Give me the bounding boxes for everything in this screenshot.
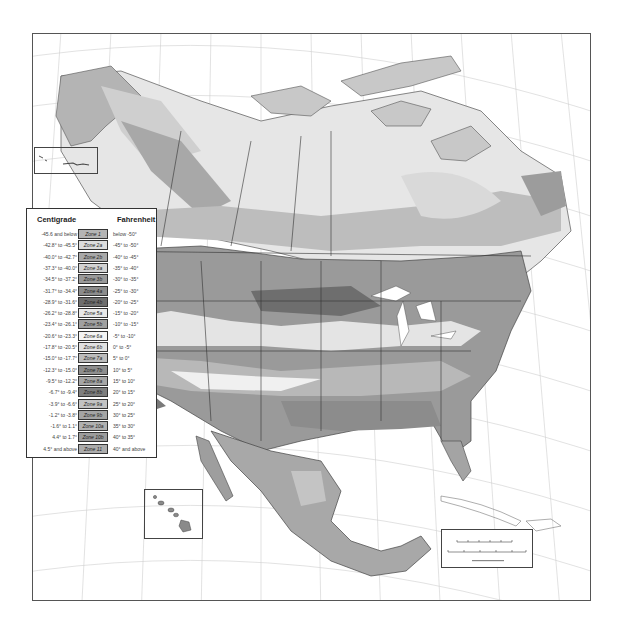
legend-fahrenheit: 0° to -5° [113,342,157,353]
legend-celsius: -9.5° to -12.2° [29,376,77,387]
zone-legend: Centigrade Fahrenheit -45.6 and belowZon… [26,208,157,458]
legend-zone-swatch: Zone 2b [78,252,108,262]
legend-row: -45.6 and belowZone 1below -50° [27,229,158,240]
legend-row: -15.0° to -17.7°Zone 7a5° to 0° [27,353,158,364]
legend-fahrenheit: 15° to 10° [113,376,157,387]
legend-zone-swatch: Zone 2a [78,240,108,250]
legend-row: -42.8° to -45.5°Zone 2a-45° to -50° [27,240,158,251]
legend-fahrenheit: -45° to -50° [113,240,157,251]
legend-row: -26.2° to -28.8°Zone 5a-15° to -20° [27,308,158,319]
legend-celsius: -20.6° to -23.3° [29,331,77,342]
legend-row: -1.6° to 1.1°Zone 10a35° to 30° [27,421,158,432]
legend-row: -23.4° to -26.1°Zone 5b-10° to -15° [27,319,158,330]
legend-celsius: -45.6 and below [29,229,77,240]
legend-row: -28.9° to -31.6°Zone 4b-20° to -25° [27,297,158,308]
legend-fahrenheit: -35° to -40° [113,263,157,274]
legend-celsius: -31.7° to -34.4° [29,286,77,297]
legend-row: -20.6° to -23.3°Zone 6a-5° to -10° [27,331,158,342]
legend-celsius: 4.5° and above [29,444,77,455]
legend-row: -17.8° to -20.5°Zone 6b0° to -5° [27,342,158,353]
legend-fahrenheit: 30° to 25° [113,410,157,421]
legend-fahrenheit: -30° to -35° [113,274,157,285]
legend-zone-swatch: Zone 5b [78,319,108,329]
legend-zone-swatch: Zone 6b [78,342,108,352]
legend-fahrenheit: -25° to -30° [113,286,157,297]
legend-row: -37.3° to -40.0°Zone 3a-35° to -40° [27,263,158,274]
legend-celsius: -28.9° to -31.6° [29,297,77,308]
legend-row: -1.2° to -3.8°Zone 9b30° to 25° [27,410,158,421]
legend-row: -40.0° to -42.7°Zone 2b-40° to -45° [27,252,158,263]
legend-zone-swatch: Zone 4b [78,297,108,307]
legend-row: -3.9° to -6.6°Zone 9a25° to 20° [27,399,158,410]
legend-row: -34.5° to -37.2°Zone 3b-30° to -35° [27,274,158,285]
legend-fahrenheit: below -50° [113,229,157,240]
legend-celsius: -37.3° to -40.0° [29,263,77,274]
legend-celsius: -1.2° to -3.8° [29,410,77,421]
legend-header-centigrade: Centigrade [37,215,76,224]
scale-bar [441,529,533,568]
legend-row: -31.7° to -34.4°Zone 4a-25° to -30° [27,286,158,297]
legend-zone-swatch: Zone 7a [78,353,108,363]
legend-fahrenheit: 40° and above [113,444,157,455]
caribbean-islands [441,496,561,531]
legend-celsius: -34.5° to -37.2° [29,274,77,285]
legend-celsius: -23.4° to -26.1° [29,319,77,330]
legend-zone-swatch: Zone 9b [78,410,108,420]
legend-fahrenheit: -40° to -45° [113,252,157,263]
aleutian-islands-icon [35,148,97,173]
legend-row: 4.5° and aboveZone 1140° and above [27,444,158,455]
legend-header-fahrenheit: Fahrenheit [117,215,155,224]
legend-row: -12.3° to -15.0°Zone 7b10° to 5° [27,365,158,376]
legend-celsius: -26.2° to -28.8° [29,308,77,319]
legend-zone-swatch: Zone 9a [78,399,108,409]
legend-zone-swatch: Zone 6a [78,331,108,341]
legend-fahrenheit: -20° to -25° [113,297,157,308]
hawaii-islands-icon [145,490,202,538]
legend-row: 4.4° to 1.7°Zone 10b40° to 35° [27,432,158,443]
legend-zone-swatch: Zone 5a [78,308,108,318]
legend-fahrenheit: 5° to 0° [113,353,157,364]
legend-zone-swatch: Zone 10b [78,432,108,442]
legend-zone-swatch: Zone 10a [78,421,108,431]
florida [441,441,471,481]
legend-celsius: -1.6° to 1.1° [29,421,77,432]
legend-zone-swatch: Zone 8a [78,376,108,386]
legend-fahrenheit: -5° to -10° [113,331,157,342]
legend-zone-swatch: Zone 7b [78,365,108,375]
legend-zone-swatch: Zone 8b [78,387,108,397]
legend-zone-swatch: Zone 1 [78,229,108,239]
legend-fahrenheit: 35° to 30° [113,421,157,432]
legend-zone-swatch: Zone 3a [78,263,108,273]
legend-fahrenheit: 25° to 20° [113,399,157,410]
aleutian-inset [34,147,98,174]
legend-celsius: -42.8° to -45.5° [29,240,77,251]
legend-celsius: -40.0° to -42.7° [29,252,77,263]
legend-row: -6.7° to -9.4°Zone 8b20° to 15° [27,387,158,398]
legend-fahrenheit: -15° to -20° [113,308,157,319]
legend-celsius: -3.9° to -6.6° [29,399,77,410]
legend-zone-swatch: Zone 11 [78,444,108,454]
legend-fahrenheit: 40° to 35° [113,432,157,443]
legend-celsius: -15.0° to -17.7° [29,353,77,364]
legend-zone-swatch: Zone 4a [78,286,108,296]
legend-zone-swatch: Zone 3b [78,274,108,284]
legend-celsius: -17.8° to -20.5° [29,342,77,353]
legend-fahrenheit: -10° to -15° [113,319,157,330]
legend-celsius: -6.7° to -9.4° [29,387,77,398]
scale-bar-ruler-icon [442,530,532,567]
legend-fahrenheit: 20° to 15° [113,387,157,398]
legend-celsius: 4.4° to 1.7° [29,432,77,443]
hawaii-inset [144,489,203,539]
legend-row: -9.5° to -12.2°Zone 8a15° to 10° [27,376,158,387]
legend-fahrenheit: 10° to 5° [113,365,157,376]
legend-celsius: -12.3° to -15.0° [29,365,77,376]
